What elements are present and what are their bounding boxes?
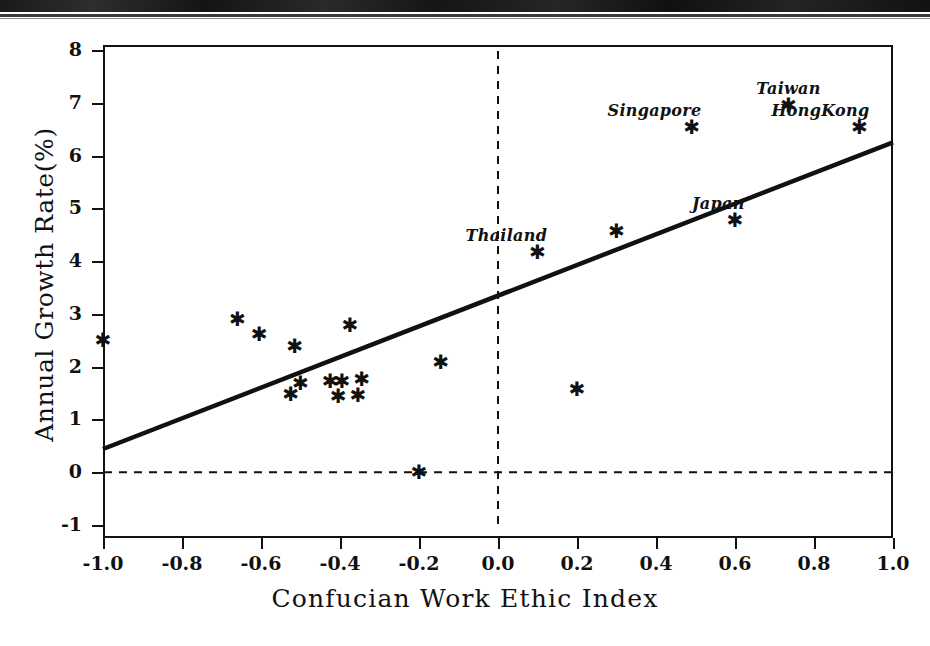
x-tick-label--0.4: -0.4 bbox=[305, 552, 375, 574]
x-tick-label-0.8: 0.8 bbox=[779, 552, 849, 574]
data-point-16: ✱ bbox=[608, 221, 625, 241]
x-tick-1.0 bbox=[893, 538, 895, 549]
y-tick-label-8: 8 bbox=[36, 38, 82, 60]
x-tick--0.2 bbox=[419, 538, 421, 549]
data-point-singapore: ✱ bbox=[683, 117, 700, 137]
x-tick-0.0 bbox=[498, 538, 500, 549]
x-tick-label--1.0: -1.0 bbox=[68, 552, 138, 574]
point-label-taiwan: Taiwan bbox=[756, 79, 820, 98]
point-label-singapore: Singapore bbox=[608, 101, 702, 120]
y-tick--1 bbox=[92, 525, 103, 527]
x-tick-label--0.6: -0.6 bbox=[226, 552, 296, 574]
x-tick--0.8 bbox=[182, 538, 184, 549]
x-tick--0.6 bbox=[261, 538, 263, 549]
point-label-hongkong: HongKong bbox=[771, 101, 869, 120]
data-point-thailand: ✱ bbox=[529, 242, 546, 262]
x-tick-label-0.0: 0.0 bbox=[463, 552, 533, 574]
point-label-japan: Japan bbox=[692, 194, 745, 213]
data-point-hongkong: ✱ bbox=[851, 117, 868, 137]
x-tick-0.6 bbox=[735, 538, 737, 549]
x-tick-label-0.4: 0.4 bbox=[621, 552, 691, 574]
data-point-3: ✱ bbox=[286, 336, 303, 356]
data-point-10: ✱ bbox=[330, 386, 347, 406]
point-label-thailand: Thailand bbox=[466, 226, 548, 245]
y-axis-title: Annual Growth Rate(%) bbox=[30, 75, 59, 495]
data-point-13: ✱ bbox=[411, 462, 428, 482]
x-tick-label-0.6: 0.6 bbox=[700, 552, 770, 574]
scatter-plot-figure: -1012345678 -1.0-0.8-0.6-0.4-0.20.00.20.… bbox=[0, 0, 930, 646]
y-tick-2 bbox=[92, 367, 103, 369]
y-tick-6 bbox=[92, 156, 103, 158]
x-tick-label-0.2: 0.2 bbox=[542, 552, 612, 574]
data-point-15: ✱ bbox=[569, 379, 586, 399]
x-tick-label--0.8: -0.8 bbox=[147, 552, 217, 574]
data-point-1: ✱ bbox=[229, 309, 246, 329]
y-tick-3 bbox=[92, 314, 103, 316]
y-tick-1 bbox=[92, 419, 103, 421]
x-tick-0.4 bbox=[656, 538, 658, 549]
x-axis-title: Confucian Work Ethic Index bbox=[0, 584, 930, 613]
x-tick-label-1.0: 1.0 bbox=[858, 552, 928, 574]
x-tick--1.0 bbox=[103, 538, 105, 549]
data-point-0: ✱ bbox=[95, 330, 112, 350]
y-tick-8 bbox=[92, 50, 103, 52]
data-point-6: ✱ bbox=[282, 384, 299, 404]
x-tick--0.4 bbox=[340, 538, 342, 549]
data-point-11: ✱ bbox=[349, 385, 366, 405]
x-tick-0.8 bbox=[814, 538, 816, 549]
x-tick-0.2 bbox=[577, 538, 579, 549]
y-tick-label--1: -1 bbox=[36, 513, 82, 535]
data-point-japan: ✱ bbox=[727, 210, 744, 230]
y-tick-7 bbox=[92, 103, 103, 105]
data-point-4: ✱ bbox=[341, 315, 358, 335]
y-tick-0 bbox=[92, 472, 103, 474]
x-tick-label--0.2: -0.2 bbox=[384, 552, 454, 574]
y-tick-5 bbox=[92, 208, 103, 210]
data-point-2: ✱ bbox=[251, 324, 268, 344]
y-tick-4 bbox=[92, 261, 103, 263]
data-point-12: ✱ bbox=[432, 352, 449, 372]
